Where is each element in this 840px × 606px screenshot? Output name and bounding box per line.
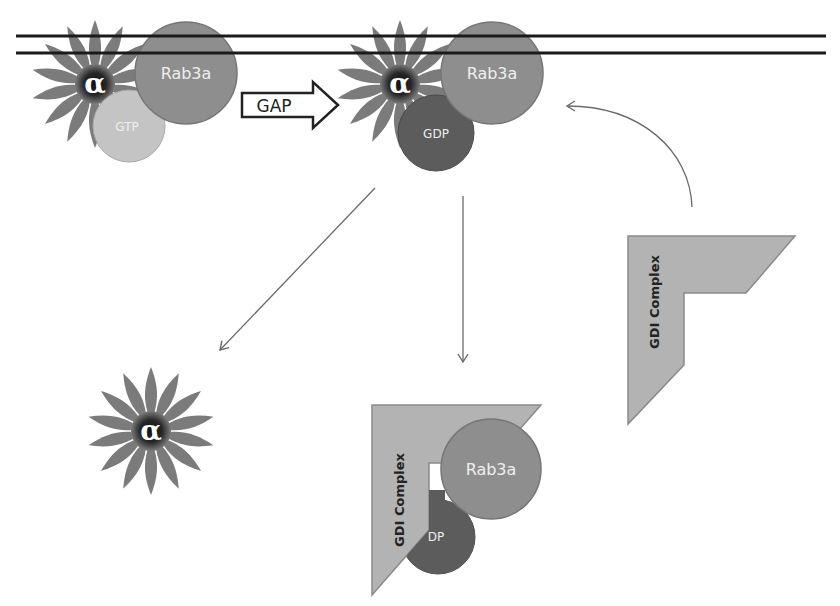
state-free-alpha: α [87, 367, 214, 495]
state-membrane-bound-gdp: α GDP Rab3a [336, 20, 543, 171]
gdi-complex-label: GDI Complex [647, 254, 662, 348]
dp-label: DP [428, 530, 444, 544]
rab3a-label: Rab3a [161, 64, 212, 83]
rab3a-label: Rab3a [467, 64, 518, 83]
gdp-label: GDP [423, 127, 449, 141]
state-membrane-bound-gtp: α GTP Rab3a [31, 20, 237, 162]
gdi-complex-label: GDI Complex [392, 452, 407, 546]
rab3a-label: Rab3a [466, 460, 517, 479]
gap-label: GAP [256, 96, 291, 116]
rab3a-gdi-cycle-diagram: α GTP Rab3a α GDP Rab3a GAP α [0, 0, 840, 606]
gap-arrow: GAP [242, 82, 338, 128]
state-gdi-bound-rab3a: DP Rab3a GDI Complex [372, 405, 541, 595]
alpha-effector-icon: α [87, 367, 214, 495]
arrow-to-free-alpha [220, 188, 375, 350]
alpha-label: α [140, 414, 162, 447]
arrow-gdi-recycle [567, 106, 692, 207]
gtp-label: GTP [115, 120, 138, 134]
state-free-gdi: GDI Complex [628, 236, 795, 424]
alpha-label: α [84, 67, 106, 100]
alpha-label: α [389, 67, 411, 100]
